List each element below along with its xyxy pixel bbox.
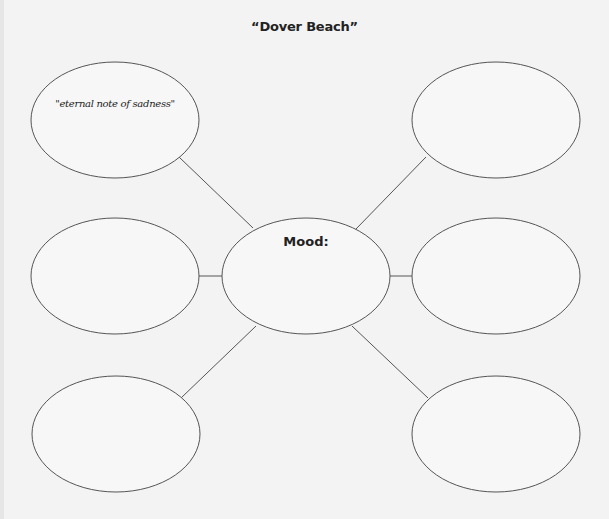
- node-middle-right-area[interactable]: [412, 218, 580, 334]
- node-bottom-right-area[interactable]: [412, 376, 580, 492]
- node-top-right-area[interactable]: [412, 62, 580, 178]
- connector-top-left: [179, 157, 253, 228]
- connector-bottom-left: [181, 326, 256, 398]
- connector-top-right: [356, 157, 426, 229]
- worksheet-page: “Dover Beach” "eternal note of sadness" …: [0, 0, 609, 519]
- mood-label: Mood:: [256, 234, 356, 249]
- node-middle-left-area[interactable]: [31, 218, 199, 334]
- node-top-left-area[interactable]: [31, 62, 199, 178]
- connector-bottom-right: [352, 326, 428, 398]
- node-top-left-text: "eternal note of sadness": [50, 98, 180, 109]
- node-bottom-left-area[interactable]: [32, 376, 200, 492]
